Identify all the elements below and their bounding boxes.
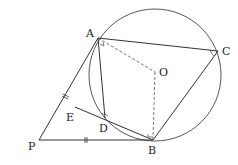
segment-cb — [153, 51, 218, 140]
label-c: C — [222, 45, 230, 58]
label-b: B — [148, 144, 156, 157]
label-p: P — [28, 140, 36, 153]
segment-ad — [98, 38, 105, 118]
angle-mark-b — [148, 134, 153, 137]
label-o: O — [159, 66, 168, 79]
segment-ob-dashed — [153, 72, 155, 140]
angle-mark-a — [100, 42, 104, 46]
diagram-canvas: A C O B D E P — [0, 0, 238, 165]
segment-pa — [39, 38, 98, 140]
label-a: A — [85, 27, 95, 40]
segment-eb — [75, 107, 153, 140]
label-d: D — [99, 122, 108, 135]
geometry-diagram: A C O B D E P — [0, 0, 238, 165]
label-e: E — [66, 111, 74, 124]
